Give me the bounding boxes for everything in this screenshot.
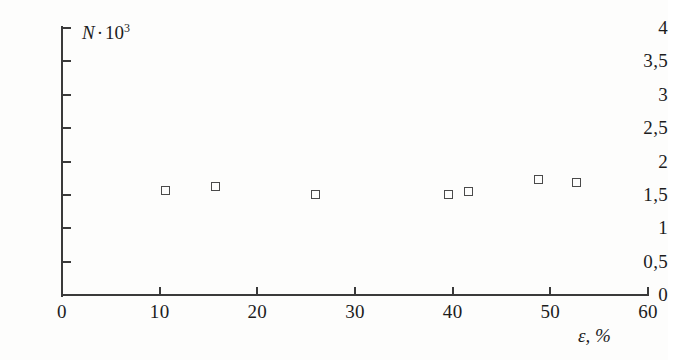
- x-axis-tick-label: 10: [130, 302, 190, 321]
- data-point-marker: [211, 182, 220, 191]
- x-axis-tick-label: 50: [520, 302, 580, 321]
- data-point-marker: [161, 186, 170, 195]
- data-point-marker: [444, 190, 453, 199]
- x-axis-tick-label: 30: [325, 302, 385, 321]
- plot-area: [62, 28, 648, 295]
- data-point-marker: [464, 187, 473, 196]
- x-axis-tick-label: 40: [423, 302, 483, 321]
- x-axis-tick-label: 20: [227, 302, 287, 321]
- x-axis-tick-label: 0: [32, 302, 92, 321]
- x-axis-tick-label: 60: [618, 302, 673, 321]
- data-point-marker: [534, 175, 543, 184]
- x-axis-label: ε, %: [578, 326, 611, 345]
- data-point-marker: [311, 190, 320, 199]
- data-point-marker: [572, 178, 581, 187]
